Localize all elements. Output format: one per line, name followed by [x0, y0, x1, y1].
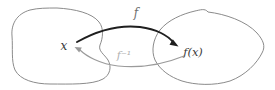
function-inverse-diagram: x f(x) f f⁻¹ [0, 0, 275, 90]
forward-map-label: f [133, 6, 141, 20]
diagram-canvas: x f(x) f f⁻¹ [0, 0, 275, 90]
domain-point-label: x [61, 39, 68, 53]
codomain-set-outline [153, 10, 264, 85]
codomain-point-label: f(x) [182, 45, 203, 59]
inverse-arrowhead [75, 47, 82, 52]
inverse-map-arrow [80, 50, 184, 67]
forward-map-arrow [77, 27, 173, 42]
inverse-map-label: f⁻¹ [116, 49, 131, 62]
